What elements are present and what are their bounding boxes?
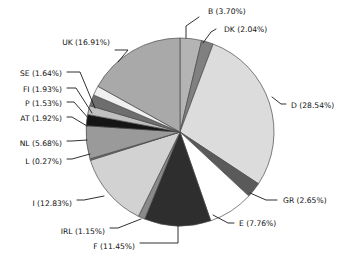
slice-label-irl: IRL (1.15%) — [61, 227, 105, 236]
slice-label-dk: DK (2.04%) — [224, 25, 267, 34]
slice-label-d: D (28.54%) — [291, 101, 334, 110]
leader-line-b — [186, 17, 199, 38]
slice-label-uk: UK (16.91%) — [62, 38, 110, 47]
slice-label-i: I (12.83%) — [32, 199, 72, 208]
slice-label-gr: GR (2.65%) — [283, 196, 327, 205]
leader-line-d — [272, 97, 286, 104]
leader-line-l — [67, 154, 90, 159]
slice-label-b: B (3.70%) — [208, 7, 246, 16]
leader-line-f — [140, 226, 178, 243]
slice-label-fi: FI (1.93%) — [23, 85, 62, 94]
leader-line-i — [77, 196, 104, 200]
pie-slices-group — [86, 38, 274, 226]
slice-label-at: AT (1.92%) — [20, 114, 62, 123]
leader-line-gr — [250, 193, 277, 200]
leader-line-p — [67, 102, 89, 119]
pie-chart-figure: B (3.70%)DK (2.04%)D (28.54%)GR (2.65%)E… — [0, 0, 357, 266]
pie-chart-svg: B (3.70%)DK (2.04%)D (28.54%)GR (2.65%)E… — [0, 0, 357, 266]
slice-label-f: F (11.45%) — [93, 242, 135, 251]
slice-label-l: L (0.27%) — [25, 157, 62, 166]
leader-line-nl — [67, 140, 87, 141]
slice-label-nl: NL (5.68%) — [20, 139, 62, 148]
leader-line-dk — [203, 29, 216, 43]
slice-label-e: E (7.76%) — [239, 219, 276, 228]
slice-label-se: SE (1.64%) — [20, 69, 62, 78]
leader-line-irl — [110, 219, 141, 228]
slice-label-p: P (1.53%) — [25, 99, 62, 108]
leader-line-at — [67, 117, 87, 126]
